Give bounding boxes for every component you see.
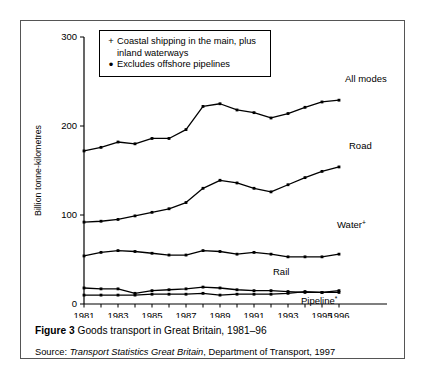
data-point [219,250,222,253]
x-tick-label: 1991 [243,310,264,319]
data-point [100,287,103,290]
data-point [287,292,290,295]
data-point [185,287,188,290]
data-point [83,287,86,290]
data-point [202,105,205,108]
data-point [117,141,120,144]
data-point [134,294,137,297]
source-publication: Transport Statistics Great Britain [70,347,204,357]
data-point [83,221,86,224]
data-point [134,214,137,217]
series-line-road [84,167,339,222]
data-point [338,253,341,256]
data-point [304,255,307,258]
data-point [168,254,171,257]
data-point [151,137,154,140]
series-label-rail: Rail [273,266,289,277]
data-point [321,291,324,294]
legend-text-water: Coastal shipping in the main, plus inlan… [117,36,263,59]
x-tick-label: 1989 [209,310,230,319]
data-point [287,255,290,258]
data-point [253,289,256,292]
data-point [304,106,307,109]
data-point [321,101,324,104]
data-point [304,290,307,293]
data-point [236,288,239,291]
data-point [185,254,188,257]
data-point [151,293,154,296]
data-point [236,293,239,296]
caption-block: Figure 3 Goods transport in Great Britai… [21,320,404,358]
data-point [100,146,103,149]
x-tick-label: 1985 [141,310,162,319]
data-point [117,294,120,297]
y-tick-label: 300 [61,31,77,42]
data-point [151,211,154,214]
legend-plus-icon: + [105,36,117,48]
y-tick-label: 200 [61,120,77,131]
x-tick-label: 1993 [277,310,298,319]
source-prefix: Source: [35,347,67,357]
data-point [253,187,256,190]
data-point [338,166,341,169]
data-point [338,291,341,294]
x-tick-label: 1996 [328,310,349,319]
y-tick-label: 0 [72,298,77,309]
data-point [270,190,273,193]
data-point [83,255,86,258]
data-point [219,179,222,182]
data-point [134,250,137,253]
data-point [134,142,137,145]
figure-caption: Figure 3 Goods transport in Great Britai… [35,324,390,337]
legend-text-pipeline: Excludes offshore pipelines [117,59,263,71]
data-point [253,293,256,296]
y-axis-title: Billion tonne-kilometres [33,124,43,216]
data-point [151,252,154,255]
data-point [202,249,205,252]
figure-source: Source: Transport Statistics Great Brita… [35,346,390,358]
figure-caption-text: Goods transport in Great Britain, 1981–9… [77,325,266,336]
source-rest: , Department of Transport, 1997 [203,347,335,357]
data-point [202,292,205,295]
data-point [185,201,188,204]
data-point [168,137,171,140]
data-point [151,289,154,292]
legend-box: + Coastal shipping in the main, plus inl… [99,30,271,77]
data-point [117,218,120,221]
legend-row: • Excludes offshore pipelines [105,59,263,71]
data-point [202,187,205,190]
series-label-pipeline: Pipeline* [301,295,338,306]
data-point [338,99,341,102]
data-point [168,207,171,210]
series-label-road: Road [349,140,372,151]
data-point [321,170,324,173]
data-point [219,294,222,297]
data-point [236,253,239,256]
series-label-water: Water+ [337,219,366,230]
data-point [270,293,273,296]
data-point [83,294,86,297]
data-point [219,102,222,105]
data-point [236,109,239,112]
data-point [100,251,103,254]
data-point [253,251,256,254]
data-point [253,111,256,114]
data-point [287,183,290,186]
data-point [117,287,120,290]
series-labels: All modesRoadWater+RailPipeline* [273,73,387,306]
figure-number: Figure 3 [35,325,75,336]
figure-card: 0100200300 19811983198519871989199119931… [20,20,405,359]
data-point [100,294,103,297]
data-point [304,176,307,179]
data-point [185,293,188,296]
x-tick-label: 1981 [73,310,94,319]
data-point [100,220,103,223]
y-tick-label: 100 [61,209,77,220]
data-point [83,150,86,153]
data-point [219,287,222,290]
data-point [270,117,273,120]
data-point [270,253,273,256]
y-axis: 0100200300 [61,31,84,309]
series-line-water [84,251,339,257]
x-tick-label: 1983 [107,310,128,319]
